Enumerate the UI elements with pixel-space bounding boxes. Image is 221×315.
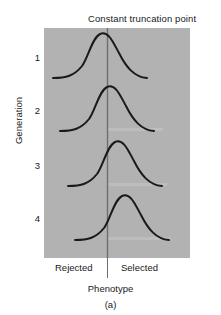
plot-area <box>44 28 190 258</box>
x-category-label-rejected: Rejected <box>55 262 93 273</box>
selected-region-shading <box>107 128 171 240</box>
y-axis-title: Generation <box>13 81 24 161</box>
truncation-line-extension <box>107 258 108 278</box>
curve-generation-4 <box>75 195 169 240</box>
y-tick-label-3: 3 <box>26 160 40 171</box>
y-tick-label-4: 4 <box>26 213 40 224</box>
curve-generation-1 <box>53 33 147 78</box>
distributions-svg <box>44 28 190 258</box>
x-axis-title: Phenotype <box>0 283 221 294</box>
y-tick-label-1: 1 <box>26 52 40 63</box>
panel-label: (a) <box>0 299 221 310</box>
y-tick-label-2: 2 <box>26 105 40 116</box>
x-category-label-selected: Selected <box>121 262 158 273</box>
curve-generation-3 <box>68 141 162 186</box>
figure-panel-a: Constant truncation point Generation 1 2… <box>0 0 221 315</box>
chart-title: Constant truncation point <box>88 13 196 24</box>
